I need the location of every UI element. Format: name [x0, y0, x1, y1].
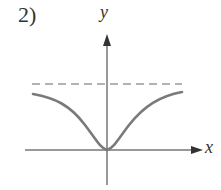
- graph-canvas: [0, 0, 221, 190]
- x-axis-arrow-icon: [191, 146, 203, 154]
- x-axis: [25, 146, 203, 154]
- y-axis: [103, 34, 111, 185]
- y-axis-arrow-icon: [103, 34, 111, 46]
